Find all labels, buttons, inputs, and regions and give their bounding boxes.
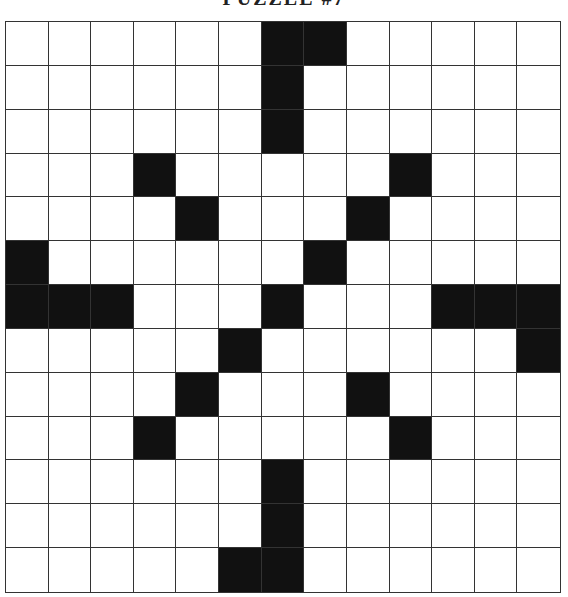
white-square[interactable] — [6, 197, 49, 241]
white-square[interactable] — [49, 504, 92, 548]
white-square[interactable] — [219, 504, 262, 548]
white-square[interactable] — [49, 154, 92, 198]
white-square[interactable] — [91, 197, 134, 241]
white-square[interactable] — [91, 548, 134, 592]
white-square[interactable] — [219, 460, 262, 504]
white-square[interactable] — [390, 548, 433, 592]
white-square[interactable] — [91, 22, 134, 66]
white-square[interactable] — [475, 373, 518, 417]
white-square[interactable] — [475, 197, 518, 241]
white-square[interactable] — [517, 66, 560, 110]
white-square[interactable] — [134, 460, 177, 504]
white-square[interactable] — [517, 110, 560, 154]
white-square[interactable] — [176, 460, 219, 504]
white-square[interactable] — [219, 66, 262, 110]
white-square[interactable] — [176, 329, 219, 373]
white-square[interactable] — [517, 417, 560, 461]
white-square[interactable] — [432, 373, 475, 417]
white-square[interactable] — [304, 110, 347, 154]
white-square[interactable] — [219, 154, 262, 198]
white-square[interactable] — [134, 548, 177, 592]
white-square[interactable] — [347, 548, 390, 592]
white-square[interactable] — [304, 460, 347, 504]
white-square[interactable] — [49, 241, 92, 285]
white-square[interactable] — [176, 66, 219, 110]
white-square[interactable] — [6, 22, 49, 66]
white-square[interactable] — [49, 110, 92, 154]
white-square[interactable] — [134, 373, 177, 417]
white-square[interactable] — [475, 66, 518, 110]
white-square[interactable] — [304, 548, 347, 592]
white-square[interactable] — [347, 154, 390, 198]
white-square[interactable] — [134, 329, 177, 373]
white-square[interactable] — [6, 154, 49, 198]
white-square[interactable] — [347, 22, 390, 66]
white-square[interactable] — [390, 197, 433, 241]
white-square[interactable] — [6, 329, 49, 373]
white-square[interactable] — [475, 241, 518, 285]
white-square[interactable] — [219, 417, 262, 461]
white-square[interactable] — [432, 110, 475, 154]
white-square[interactable] — [262, 373, 305, 417]
white-square[interactable] — [390, 329, 433, 373]
white-square[interactable] — [347, 285, 390, 329]
white-square[interactable] — [347, 417, 390, 461]
white-square[interactable] — [304, 197, 347, 241]
white-square[interactable] — [517, 373, 560, 417]
white-square[interactable] — [390, 285, 433, 329]
white-square[interactable] — [432, 548, 475, 592]
white-square[interactable] — [219, 22, 262, 66]
white-square[interactable] — [390, 241, 433, 285]
white-square[interactable] — [475, 548, 518, 592]
white-square[interactable] — [475, 417, 518, 461]
white-square[interactable] — [49, 373, 92, 417]
white-square[interactable] — [475, 329, 518, 373]
white-square[interactable] — [390, 373, 433, 417]
white-square[interactable] — [517, 548, 560, 592]
white-square[interactable] — [176, 110, 219, 154]
white-square[interactable] — [6, 110, 49, 154]
white-square[interactable] — [219, 285, 262, 329]
white-square[interactable] — [49, 460, 92, 504]
white-square[interactable] — [49, 548, 92, 592]
white-square[interactable] — [49, 329, 92, 373]
white-square[interactable] — [390, 460, 433, 504]
white-square[interactable] — [134, 22, 177, 66]
white-square[interactable] — [6, 373, 49, 417]
white-square[interactable] — [304, 504, 347, 548]
white-square[interactable] — [91, 329, 134, 373]
white-square[interactable] — [262, 154, 305, 198]
white-square[interactable] — [262, 241, 305, 285]
white-square[interactable] — [432, 22, 475, 66]
white-square[interactable] — [517, 460, 560, 504]
white-square[interactable] — [390, 504, 433, 548]
white-square[interactable] — [176, 504, 219, 548]
white-square[interactable] — [49, 66, 92, 110]
white-square[interactable] — [6, 66, 49, 110]
white-square[interactable] — [347, 241, 390, 285]
white-square[interactable] — [134, 504, 177, 548]
white-square[interactable] — [219, 197, 262, 241]
white-square[interactable] — [517, 504, 560, 548]
white-square[interactable] — [304, 66, 347, 110]
white-square[interactable] — [91, 460, 134, 504]
white-square[interactable] — [347, 329, 390, 373]
white-square[interactable] — [91, 504, 134, 548]
white-square[interactable] — [134, 285, 177, 329]
white-square[interactable] — [6, 504, 49, 548]
white-square[interactable] — [91, 241, 134, 285]
white-square[interactable] — [475, 460, 518, 504]
white-square[interactable] — [176, 285, 219, 329]
white-square[interactable] — [49, 22, 92, 66]
white-square[interactable] — [219, 241, 262, 285]
white-square[interactable] — [134, 197, 177, 241]
white-square[interactable] — [91, 154, 134, 198]
white-square[interactable] — [176, 22, 219, 66]
white-square[interactable] — [390, 110, 433, 154]
white-square[interactable] — [176, 548, 219, 592]
white-square[interactable] — [517, 22, 560, 66]
white-square[interactable] — [432, 504, 475, 548]
white-square[interactable] — [475, 22, 518, 66]
white-square[interactable] — [347, 66, 390, 110]
white-square[interactable] — [304, 373, 347, 417]
